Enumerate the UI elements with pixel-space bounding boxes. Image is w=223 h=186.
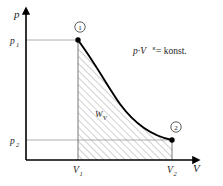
pv-diagram-svg: 1 2 p V p 1 p 2 V 1 V 2 p·V κ = konst. W…: [0, 0, 223, 186]
work-area-hatched: [78, 40, 172, 160]
state-point-2-label: 2: [174, 124, 178, 132]
formula-equals: = konst.: [156, 46, 187, 56]
pv-diagram-figure: 1 2 p V p 1 p 2 V 1 V 2 p·V κ = konst. W…: [0, 0, 223, 186]
tick-label-v1-sub: 1: [80, 170, 83, 177]
tick-label-p2-sub: 2: [16, 141, 20, 148]
p-axis-label: p: [13, 8, 20, 20]
formula-base: p·V: [132, 46, 147, 56]
state-point-1-label: 1: [78, 24, 82, 32]
tick-label-p2: p: [9, 136, 15, 146]
tick-label-p1-sub: 1: [16, 41, 19, 48]
v-axis-label: V: [193, 162, 201, 174]
tick-label-v2-sub: 2: [174, 170, 178, 177]
state-point-1-dot: [75, 37, 80, 42]
state-point-2-dot: [169, 137, 174, 142]
tick-label-p1: p: [9, 36, 15, 46]
